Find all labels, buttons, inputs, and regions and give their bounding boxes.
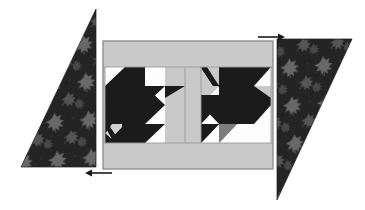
quilt-assembly-diagram [0, 0, 365, 210]
center-pieced-panel[interactable] [103, 41, 273, 169]
top-border-strip [103, 41, 273, 67]
diagram-canvas [0, 0, 365, 210]
center-sashing-strip-front [185, 67, 201, 143]
bottom-border-strip [103, 143, 273, 169]
